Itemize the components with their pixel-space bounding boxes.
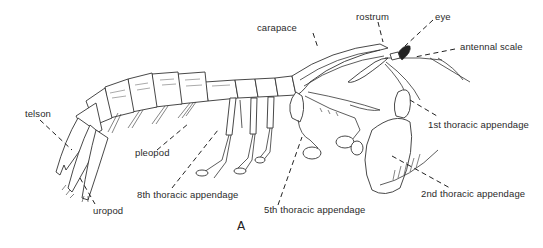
label-telson: telson xyxy=(25,109,51,119)
label-5th-thoracic-appendage: 5th thoracic appendage xyxy=(264,205,366,215)
label-rostrum: rostrum xyxy=(356,12,389,22)
label-1st-thoracic-appendage: 1st thoracic appendage xyxy=(428,120,529,130)
label-pleopod: pleopod xyxy=(135,148,170,158)
label-carapace: carapace xyxy=(257,23,297,33)
thoracic-legs xyxy=(196,97,274,178)
label-uropod: uropod xyxy=(93,206,123,216)
label-8th-thoracic-appendage: 8th thoracic appendage xyxy=(137,190,239,200)
crustacean-diagram: telson uropod pleopod 8th thoracic appen… xyxy=(0,0,543,248)
label-2nd-thoracic-appendage: 2nd thoracic appendage xyxy=(421,189,525,199)
panel-label: A xyxy=(237,220,245,232)
label-antennal-scale: antennal scale xyxy=(460,42,523,52)
abdomen xyxy=(76,72,238,138)
thorax xyxy=(235,76,296,98)
label-eye: eye xyxy=(435,12,451,22)
